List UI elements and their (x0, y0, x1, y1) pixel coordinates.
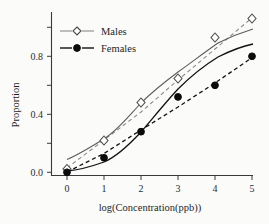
x-ticklabel-5: 5 (250, 183, 255, 194)
x-ticklabel-1: 1 (102, 183, 107, 194)
x-ticklabel-0: 0 (65, 183, 70, 194)
y-axis-ticks (47, 27, 52, 172)
chart-legend: Males Females (60, 26, 136, 54)
plot-axes (52, 12, 254, 176)
x-axis-ticks (67, 176, 252, 181)
legend-males-open-diamond-icon (73, 27, 81, 35)
males-point-x4 (211, 33, 219, 42)
males-fitted-curve (67, 29, 253, 160)
legend-females-label: Females (101, 43, 136, 54)
x-ticklabel-4: 4 (213, 183, 218, 194)
females-point-x1 (101, 154, 108, 161)
females-point-x3 (175, 94, 182, 101)
legend-females-filled-circle-icon (74, 45, 81, 52)
y-axis-title: Proportion (10, 82, 21, 128)
proportion-vs-log-concentration-chart: 0.0 0.4 0.8 0 1 2 3 4 5 log(Concentratio… (0, 0, 269, 224)
x-axis-tick-labels: 0 1 2 3 4 5 (65, 183, 255, 194)
females-point-x5 (249, 53, 256, 60)
males-point-x5 (248, 14, 256, 23)
males-point-x3 (174, 74, 182, 83)
x-axis-title: log(Concentration(ppb)) (99, 202, 202, 214)
females-point-x2 (138, 128, 145, 135)
females-point-x0 (64, 169, 71, 176)
y-axis-tick-labels: 0.0 0.4 0.8 (31, 51, 44, 178)
legend-item-males[interactable]: Males (60, 26, 127, 37)
females-dashed-fit (67, 57, 253, 172)
females-fitted-curve (67, 44, 253, 171)
x-ticklabel-2: 2 (139, 183, 144, 194)
y-ticklabel-0: 0.0 (31, 167, 44, 178)
y-ticklabel-2: 0.8 (31, 51, 44, 62)
females-data-points (64, 53, 256, 176)
females-point-x4 (212, 82, 219, 89)
axis-frame (52, 12, 254, 176)
chart-figure: 0.0 0.4 0.8 0 1 2 3 4 5 log(Concentratio… (0, 0, 269, 224)
legend-males-label: Males (101, 26, 127, 37)
y-ticklabel-1: 0.4 (31, 109, 44, 120)
x-ticklabel-3: 3 (176, 183, 181, 194)
legend-item-females[interactable]: Females (60, 43, 136, 54)
